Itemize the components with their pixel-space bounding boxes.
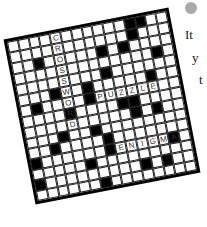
text-line: It [185,27,193,43]
crossword-grid: CROSSWOPUZZLERDENIGMA [7,11,197,201]
thumbs-up-icon [185,2,197,14]
side-text: It y t [183,0,207,90]
text-line: t [199,72,203,88]
crossword-illustration: CROSSWOPUZZLERDENIGMA [4,8,201,205]
grid-cell [184,160,197,172]
text-line: y [192,50,199,66]
